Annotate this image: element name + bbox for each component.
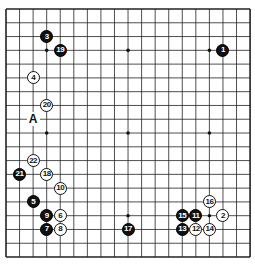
go-board: 12345678910111213141516171819202122A [0,0,255,268]
star-point [45,131,49,135]
black-stone: 5 [27,195,40,208]
white-stone: 10 [54,182,67,195]
white-stone: 22 [27,154,40,167]
white-stone: 8 [54,223,67,236]
white-stone: 4 [27,71,40,84]
white-stone: 18 [40,168,53,181]
star-point [126,49,130,53]
point-label: A [27,112,40,126]
black-stone: 17 [122,223,135,236]
star-point [126,131,130,135]
white-stone: 6 [54,209,67,222]
star-point [126,214,130,218]
star-point [208,131,212,135]
black-stone: 13 [176,223,189,236]
star-point [208,49,212,53]
white-stone: 14 [203,223,216,236]
black-stone: 21 [13,168,26,181]
star-point [208,214,212,218]
black-stone: 15 [176,209,189,222]
star-point [45,49,49,53]
black-stone: 19 [54,44,67,57]
